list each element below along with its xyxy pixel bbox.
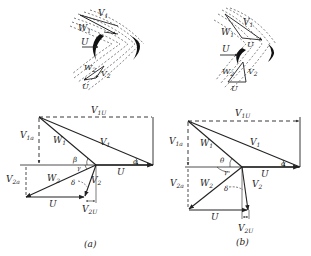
svg-text:W2: W2 <box>84 63 96 73</box>
svg-text:V1a: V1a <box>169 136 183 147</box>
blade-right <box>131 36 140 60</box>
svg-text:V1: V1 <box>250 137 260 148</box>
panel-a-velocity-diagram: V1U V1a W1 V1 α β γ U V2a W2 δ V2 U V2U … <box>6 105 153 249</box>
svg-text:U: U <box>231 84 238 93</box>
svg-text:U: U <box>117 167 125 177</box>
velocity-triangle-figure: V1 W1 U W2 V2 U V1 W1 U U W2 V2 U <box>0 0 311 256</box>
svg-text:θ: θ <box>220 157 225 165</box>
svg-text:U: U <box>81 37 89 47</box>
svg-text:V2a: V2a <box>170 178 184 189</box>
w2-vector <box>26 165 96 197</box>
v2-vector <box>243 62 246 82</box>
gamma-arc <box>85 165 87 169</box>
svg-text:V2: V2 <box>101 69 111 79</box>
svg-text:V2: V2 <box>91 175 102 186</box>
blade-left <box>236 48 246 64</box>
svg-text:V2: V2 <box>248 67 258 77</box>
delta-arc <box>229 187 243 190</box>
svg-text:U: U <box>261 169 269 179</box>
svg-text:V1U: V1U <box>235 108 251 119</box>
svg-text:W1: W1 <box>53 135 66 146</box>
svg-text:δ: δ <box>224 185 228 193</box>
svg-text:γ: γ <box>224 168 228 176</box>
svg-text:W2: W2 <box>222 67 234 77</box>
svg-text:V1: V1 <box>243 17 253 28</box>
caption-a: (a) <box>84 239 97 249</box>
svg-text:W1: W1 <box>78 23 91 34</box>
svg-text:V1: V1 <box>100 137 110 148</box>
svg-text:V1U: V1U <box>91 105 107 116</box>
svg-text:W2: W2 <box>47 173 60 184</box>
panel-b-velocity-diagram: V1U V1a W1 V1 α θ γ U V2a W2 δ V2 U V2U … <box>169 108 300 247</box>
panel-a-blade-sketch: V1 W1 U W2 V2 U <box>70 8 144 91</box>
beta-arc <box>87 158 88 165</box>
svg-text:V2U: V2U <box>238 223 254 234</box>
svg-text:V1a: V1a <box>20 130 34 141</box>
svg-text:β: β <box>72 156 77 164</box>
svg-text:W1: W1 <box>200 138 213 149</box>
svg-text:V2U: V2U <box>82 204 98 215</box>
caption-b: (b) <box>236 237 249 247</box>
svg-text:δ: δ <box>71 179 75 187</box>
svg-text:W2: W2 <box>200 178 213 189</box>
svg-text:V1: V1 <box>98 8 108 19</box>
svg-text:γ: γ <box>77 164 81 172</box>
w2-vector <box>189 167 242 209</box>
panel-b-blade-sketch: V1 W1 U U W2 V2 U <box>214 8 276 93</box>
svg-text:V2a: V2a <box>6 174 20 185</box>
svg-text:U: U <box>82 82 89 91</box>
svg-text:U: U <box>222 44 230 54</box>
svg-text:U: U <box>211 212 219 222</box>
svg-text:U: U <box>49 199 57 209</box>
svg-text:U: U <box>247 40 254 49</box>
w1-vector <box>188 121 242 167</box>
svg-text:V2: V2 <box>252 179 263 190</box>
svg-text:α: α <box>133 158 138 166</box>
svg-text:α: α <box>281 160 286 168</box>
theta-arc <box>230 158 232 167</box>
v2-vector <box>242 167 248 210</box>
blade-right <box>268 44 274 62</box>
svg-text:W1: W1 <box>221 27 234 38</box>
delta-arc <box>78 181 87 187</box>
w1-vector <box>39 117 96 165</box>
